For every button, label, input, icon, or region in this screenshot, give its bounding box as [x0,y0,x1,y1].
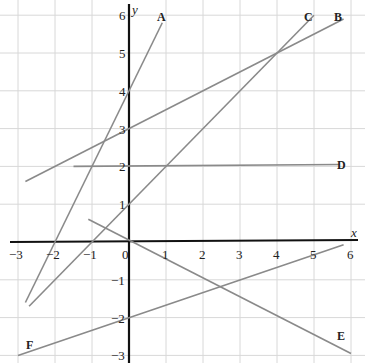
tick-labels: −3−2−10123456654321−1−2−3 [9,8,354,363]
x-tick-label: −1 [83,247,97,262]
line-label-b: B [334,10,342,24]
y-tick-label: 6 [119,8,126,23]
y-tick-label: 3 [119,122,126,137]
x-tick-label: −3 [9,247,23,262]
grid-lines [0,0,365,363]
y-tick-label: 1 [119,197,126,212]
line-label-a: A [157,10,166,24]
line-label-c: C [304,10,313,24]
line-label-e: E [337,329,345,343]
x-tick-label: −2 [46,247,60,262]
x-tick-label: 6 [347,247,354,262]
y-tick-label: 4 [119,84,126,99]
x-tick-label: 2 [199,247,206,262]
y-tick-label: −2 [111,311,125,326]
x-tick-label: 3 [236,247,243,262]
line-label-d: D [337,158,346,172]
x-tick-label: 5 [310,247,317,262]
y-tick-label: 5 [119,46,126,61]
axes [10,4,358,363]
y-axis-label: y [130,2,138,17]
y-tick-label: −1 [111,273,125,288]
y-tick-label: −3 [111,348,125,363]
line-f [18,245,344,356]
plot-lines [18,15,351,355]
x-axis [10,240,358,242]
y-tick-label: 2 [119,159,126,174]
coordinate-plane: −3−2−10123456654321−1−2−3 x y A B C D E … [0,0,365,363]
x-tick-label: 4 [273,247,280,262]
x-tick-label: 0 [122,247,129,262]
line-b [25,19,343,182]
x-axis-label: x [350,225,357,240]
line-label-f: F [26,338,33,352]
x-tick-label: 1 [162,247,169,262]
